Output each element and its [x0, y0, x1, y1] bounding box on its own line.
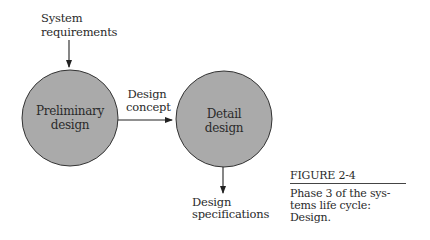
input-label-line2: requirements: [41, 26, 117, 38]
caption-rule: [290, 183, 406, 184]
node-preliminary-line1: Preliminary: [22, 104, 118, 118]
input-label-line1: System: [41, 12, 117, 24]
node-detail-label: Detail design: [176, 107, 272, 135]
edge-label-line2: concept: [126, 101, 168, 113]
node-detail-line1: Detail: [176, 107, 272, 121]
output-label: Design specifications: [192, 196, 269, 220]
figure-caption-title: FIGURE 2-4: [290, 170, 356, 182]
edge-label-line1: Design: [126, 88, 168, 100]
input-label: System requirements: [41, 12, 117, 38]
node-detail-line2: design: [176, 121, 272, 135]
output-label-line2: specifications: [192, 208, 269, 220]
node-preliminary-label: Preliminary design: [22, 104, 118, 132]
edge-label: Design concept: [126, 88, 168, 113]
figure-caption-body: Phase 3 of the sys- tems life cycle: Des…: [290, 188, 420, 224]
node-preliminary-line2: design: [22, 118, 118, 132]
